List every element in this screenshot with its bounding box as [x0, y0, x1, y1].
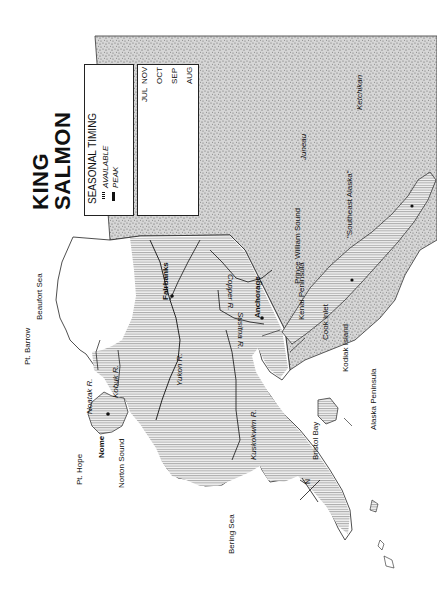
month-aug: AUG — [186, 67, 194, 84]
label-north: N — [304, 479, 311, 484]
label-susitna-r: Susitna R. — [236, 312, 244, 349]
label-kenai-peninsula: Kenai Peninsula — [298, 262, 306, 320]
label-yukon-r: Yukon R. — [176, 353, 184, 386]
label-fairbanks: Fairbanks — [162, 262, 170, 300]
label-ketchikan: Ketchikan — [356, 75, 364, 110]
label-kodiak-island: Kodiak Island — [342, 324, 350, 372]
fairbanks-dot — [170, 294, 174, 298]
nome-dot — [106, 412, 110, 416]
title-line2: SALMON — [52, 112, 74, 210]
legend-peak-label: PEAK — [112, 167, 120, 188]
label-kuskokwim-r: Kuskokwim R. — [250, 409, 258, 460]
label-juneau: Juneau — [300, 134, 308, 160]
map-title: KING SALMON — [30, 112, 74, 210]
label-beaufort-sea: Beaufort Sea — [36, 273, 44, 320]
month-oct: OCT — [156, 67, 164, 84]
month-nov: NOV — [141, 67, 149, 84]
label-pt-barrow: Pt. Barrow — [24, 328, 32, 365]
label-alaska-peninsula: Alaska Peninsula — [370, 369, 378, 430]
label-bering-sea: Bering Sea — [228, 514, 236, 554]
peak-swatch — [112, 192, 115, 201]
legend-heading: SEASONAL TIMING — [88, 113, 98, 204]
available-swatch — [102, 192, 105, 200]
label-copper-r: Copper R. — [226, 274, 234, 310]
label-cook-inlet: Cook Inlet — [322, 304, 330, 340]
legend-available-label: AVAILABLE — [102, 146, 110, 188]
kodiak-island — [318, 398, 338, 424]
alaska-map — [0, 0, 437, 592]
label-bristol-bay: Bristol Bay — [312, 422, 320, 460]
label-nome: Nome — [98, 436, 106, 458]
label-noatak-r: Noatak R. — [86, 378, 94, 414]
label-southeast-alaska: "Southeast Alaska" — [346, 171, 354, 239]
label-norton-sound: Norton Sound — [118, 439, 126, 488]
label-kobuk-r: Kobuk R. — [112, 365, 120, 398]
month-jul: JUL — [141, 88, 149, 102]
label-anchorage: Anchorage — [254, 276, 262, 318]
juneau-dot — [350, 278, 353, 281]
ketchikan-dot — [410, 204, 413, 207]
month-sep: SEP — [171, 68, 179, 84]
title-line1: KING — [30, 112, 52, 210]
label-pt-hope: Pt. Hope — [76, 454, 84, 485]
